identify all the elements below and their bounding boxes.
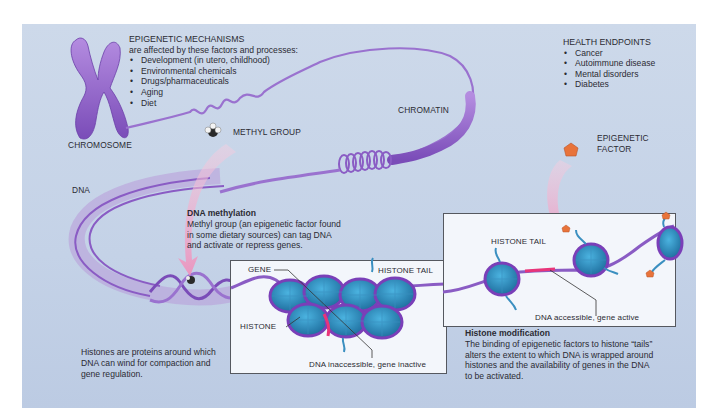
health-item: Cancer bbox=[563, 48, 655, 59]
epigenetic-factor-label: EPIGENETIC FACTOR bbox=[597, 133, 649, 154]
mechanisms-subheading: are affected by these factors and proces… bbox=[129, 45, 298, 56]
mechanisms-list: Development (in utero, childhood) Enviro… bbox=[129, 55, 298, 108]
mechanisms-item: Diet bbox=[129, 98, 298, 109]
active-caption: DNA accessible, gene active bbox=[535, 313, 639, 322]
histone-modification-line: histones and the availability of genes i… bbox=[465, 360, 653, 371]
methylation-line: and activate or repress genes. bbox=[187, 240, 341, 251]
methylation-line: in some dietary sources) can tag DNA bbox=[187, 230, 341, 241]
histones-note-line: Histones are proteins around which bbox=[81, 347, 216, 358]
methyl-group-label: METHYL GROUP bbox=[233, 127, 301, 137]
histone-modification-title: Histone modification bbox=[465, 328, 653, 339]
histone-modification-line: to be activated. bbox=[465, 371, 653, 382]
mechanisms-heading: EPIGENETIC MECHANISMS bbox=[129, 34, 298, 45]
histone-modification-line: alters the extent to which DNA is wrappe… bbox=[465, 350, 653, 361]
epigenetic-factor-label-line: EPIGENETIC bbox=[597, 133, 649, 144]
histone-modification-line: The binding of epigenetic factors to his… bbox=[465, 339, 653, 350]
epigenetic-factor-label-line: FACTOR bbox=[597, 144, 649, 155]
histones-note-line: DNA can wind for compaction and bbox=[81, 358, 216, 369]
health-item: Mental disorders bbox=[563, 69, 655, 80]
inactive-caption: DNA inaccessible, gene inactive bbox=[309, 360, 426, 369]
histone-label: HISTONE bbox=[240, 322, 276, 331]
methylation-line: Methyl group (an epigenetic factor found bbox=[187, 219, 341, 230]
health-list: Cancer Autoimmune disease Mental disorde… bbox=[563, 48, 655, 90]
chromatin-label: CHROMATIN bbox=[398, 105, 449, 115]
dna-label: DNA bbox=[72, 185, 90, 195]
health-item: Autoimmune disease bbox=[563, 58, 655, 69]
health-item: Diabetes bbox=[563, 79, 655, 90]
mechanisms-item: Drugs/pharmaceuticals bbox=[129, 76, 298, 87]
histone-modification-description: Histone modification The binding of epig… bbox=[465, 328, 653, 382]
histones-note: Histones are proteins around which DNA c… bbox=[81, 347, 216, 379]
histone-tail-label-inactive: HISTONE TAIL bbox=[378, 266, 433, 275]
mechanisms-item: Aging bbox=[129, 87, 298, 98]
gene-label: GENE bbox=[248, 265, 271, 274]
health-endpoints-block: HEALTH ENDPOINTS Cancer Autoimmune disea… bbox=[563, 37, 655, 90]
mechanisms-item: Environmental chemicals bbox=[129, 66, 298, 77]
methylation-title: DNA methylation bbox=[187, 208, 341, 219]
mechanisms-block: EPIGENETIC MECHANISMS are affected by th… bbox=[129, 34, 298, 108]
methylation-description: DNA methylation Methyl group (an epigene… bbox=[187, 208, 341, 251]
chromosome-label: CHROMOSOME bbox=[68, 140, 132, 150]
histone-tail-label-active: HISTONE TAIL bbox=[491, 237, 546, 246]
mechanisms-item: Development (in utero, childhood) bbox=[129, 55, 298, 66]
histones-note-line: gene regulation. bbox=[81, 369, 216, 380]
health-heading: HEALTH ENDPOINTS bbox=[563, 37, 655, 48]
